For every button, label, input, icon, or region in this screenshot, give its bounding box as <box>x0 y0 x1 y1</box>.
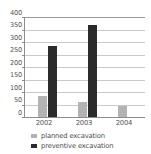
bar-2003-planned <box>78 102 87 117</box>
bar-2002-planned <box>38 96 47 117</box>
legend: planned excavation preventive excavation <box>31 131 149 151</box>
plot-area <box>24 17 145 118</box>
y-tick-label: 0 <box>0 110 22 117</box>
bar-chart: 400350300250200150100500 200220032004 pl… <box>0 0 151 154</box>
y-tickmark <box>22 117 25 118</box>
x-tick-label: 2002 <box>24 119 64 128</box>
x-axis: 200220032004 <box>24 119 144 129</box>
y-axis: 400350300250200150100500 <box>0 13 22 117</box>
legend-item-planned: planned excavation <box>31 131 149 141</box>
y-tick-label: 100 <box>0 85 22 92</box>
bar-group <box>38 17 57 117</box>
bar-group <box>118 17 137 117</box>
bar-2004-planned <box>118 106 127 117</box>
y-tick-label: 400 <box>0 10 22 17</box>
legend-label-preventive: preventive excavation <box>41 142 114 151</box>
y-tick-label: 300 <box>0 35 22 42</box>
bar-2003-preventive <box>88 25 97 118</box>
x-tick-label: 2003 <box>64 119 104 128</box>
bars-layer <box>25 17 145 117</box>
legend-swatch-preventive-icon <box>31 144 37 148</box>
y-tick-label: 150 <box>0 72 22 79</box>
legend-item-preventive: preventive excavation <box>31 141 149 151</box>
x-tick-label: 2004 <box>104 119 144 128</box>
plot-wrapper: 400350300250200150100500 200220032004 <box>0 0 151 120</box>
y-tick-label: 250 <box>0 47 22 54</box>
legend-label-planned: planned excavation <box>41 132 105 141</box>
y-tick-label: 50 <box>0 97 22 104</box>
legend-swatch-planned-icon <box>31 134 37 138</box>
bar-group <box>78 17 97 117</box>
y-tick-label: 200 <box>0 60 22 67</box>
y-tick-label: 350 <box>0 22 22 29</box>
bar-2002-preventive <box>48 46 57 117</box>
